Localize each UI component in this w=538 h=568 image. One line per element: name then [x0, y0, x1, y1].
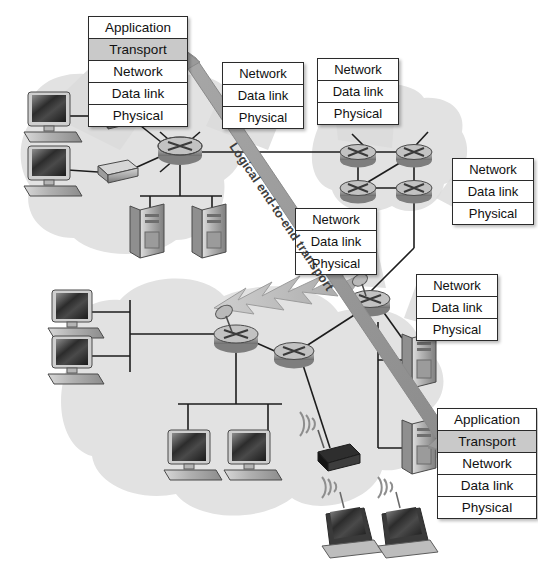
server-top-left-1 [130, 204, 164, 258]
layer-data-link: Data link [89, 83, 187, 105]
layer-physical: Physical [318, 103, 398, 124]
router-stack-upper-middle-left: Network Data link Physical [222, 62, 304, 129]
layer-network: Network [318, 59, 398, 81]
router-bottom-center [274, 343, 314, 369]
layer-data-link: Data link [438, 475, 536, 497]
layer-application: Application [438, 409, 536, 431]
layer-data-link: Data link [318, 81, 398, 103]
layer-data-link: Data link [417, 297, 497, 319]
layer-network: Network [417, 275, 497, 297]
router-wan-se [396, 181, 432, 204]
layer-data-link: Data link [223, 85, 303, 107]
layer-network: Network [296, 209, 376, 231]
layer-physical: Physical [438, 497, 536, 518]
layer-transport: Transport [89, 39, 187, 61]
layer-transport: Transport [438, 431, 536, 453]
router-wan-nw [340, 145, 376, 168]
layer-data-link: Data link [453, 181, 533, 203]
router-stack-lower-right: Network Data link Physical [416, 274, 498, 341]
layer-physical: Physical [89, 105, 187, 126]
layer-network: Network [453, 159, 533, 181]
router-wan-sw [340, 181, 376, 204]
layer-physical: Physical [453, 203, 533, 224]
router-top-left [158, 137, 202, 165]
network-layering-diagram: Application Transport Network Data link … [0, 0, 538, 568]
layer-physical: Physical [417, 319, 497, 340]
host-stack-bottom-right: Application Transport Network Data link … [437, 408, 537, 519]
layer-network: Network [89, 61, 187, 83]
layer-application: Application [89, 17, 187, 39]
layer-network: Network [438, 453, 536, 475]
router-stack-right: Network Data link Physical [452, 158, 534, 225]
router-wan-ne [396, 145, 432, 168]
host-stack-top-left: Application Transport Network Data link … [88, 16, 188, 127]
laptop-bottom-2 [378, 477, 438, 558]
layer-physical: Physical [223, 107, 303, 128]
wifi-signal-icon [378, 477, 392, 498]
router-stack-upper-middle-right: Network Data link Physical [317, 58, 399, 125]
layer-network: Network [223, 63, 303, 85]
server-top-left-2 [192, 204, 226, 258]
